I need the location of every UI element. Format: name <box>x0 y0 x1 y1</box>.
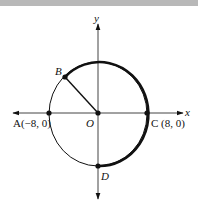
point-b <box>62 74 67 79</box>
circle-diagram: y x B A(−8, 0) O C (8, 0) D <box>0 0 198 208</box>
label-c: C (8, 0) <box>151 117 185 130</box>
label-b: B <box>55 65 62 77</box>
point-c <box>144 110 149 115</box>
label-a: A(−8, 0) <box>13 117 51 130</box>
bold-arc-b-to-d <box>65 62 148 166</box>
y-axis-label: y <box>93 12 99 24</box>
point-o <box>95 110 100 115</box>
label-o: O <box>86 117 94 129</box>
point-a <box>46 110 51 115</box>
segment-ob <box>65 77 98 113</box>
point-d <box>95 163 100 168</box>
label-d: D <box>100 170 109 182</box>
